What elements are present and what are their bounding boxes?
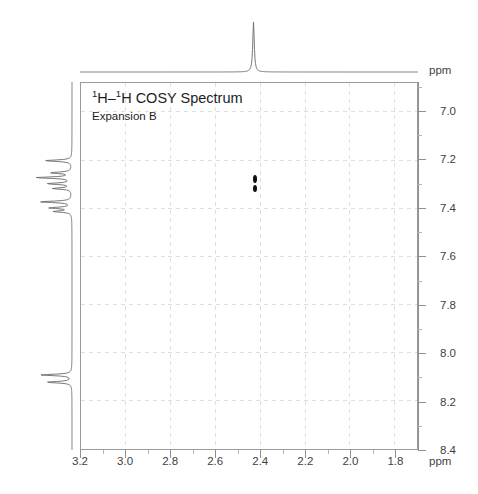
y-axis-tick — [418, 450, 426, 451]
y-axis-tick — [418, 159, 426, 160]
y-axis-minor-tick — [418, 426, 422, 427]
title-block: 1H–1H COSY Spectrum Expansion B — [92, 90, 243, 122]
x-axis-minor-tick — [328, 450, 329, 454]
y-axis-tick-label: 7.0 — [440, 105, 456, 117]
y-axis-tick — [418, 111, 426, 112]
y-axis-minor-tick — [418, 232, 422, 233]
x-axis-minor-tick — [283, 450, 284, 454]
y-axis-minor-tick — [418, 377, 422, 378]
x-axis-tick-label: 2.8 — [162, 455, 178, 467]
projection-top-trace — [80, 22, 418, 72]
y-axis-tick-label: 7.2 — [440, 153, 456, 165]
cross-peak — [253, 175, 257, 183]
x-axis-tick-label: 3.0 — [117, 455, 133, 467]
x-axis-minor-tick — [148, 450, 149, 454]
cross-peak-layer — [81, 83, 417, 449]
y-axis-minor-tick — [418, 329, 422, 330]
y-axis-unit-label: ppm — [429, 64, 451, 76]
y-axis-tick — [418, 256, 426, 257]
y-axis-minor-tick — [418, 87, 422, 88]
y-axis-minor-tick — [418, 135, 422, 136]
y-axis-tick — [418, 208, 426, 209]
y-axis-tick-label: 7.6 — [440, 250, 456, 262]
x-axis-unit-label: ppm — [429, 455, 451, 467]
y-axis-tick — [418, 353, 426, 354]
spectrum-plot-area — [80, 82, 418, 450]
subtitle: Expansion B — [92, 110, 243, 122]
x-axis-tick-label: 2.2 — [297, 455, 313, 467]
x-axis-minor-tick — [373, 450, 374, 454]
page-title: 1H–1H COSY Spectrum — [92, 90, 243, 107]
x-axis-minor-tick — [193, 450, 194, 454]
y-axis-tick-label: 7.4 — [440, 202, 456, 214]
y-axis-minor-tick — [418, 281, 422, 282]
cross-peak — [253, 185, 257, 192]
y-axis-spine — [418, 82, 419, 450]
x-axis-minor-tick — [103, 450, 104, 454]
projection-top-f2 — [80, 14, 418, 78]
x-axis-minor-tick — [238, 450, 239, 454]
projection-left-f1 — [14, 82, 78, 450]
y-axis-tick — [418, 402, 426, 403]
y-axis-minor-tick — [418, 184, 422, 185]
title-part-1: H– — [97, 90, 116, 106]
y-axis-tick-label: 7.8 — [440, 299, 456, 311]
y-axis-tick-label: 8.2 — [440, 396, 456, 408]
projection-left-trace — [36, 82, 72, 450]
y-axis-tick-label: 8.0 — [440, 347, 456, 359]
x-axis-tick-label: 2.6 — [207, 455, 223, 467]
y-axis-tick — [418, 305, 426, 306]
x-axis-tick-label: 2.0 — [342, 455, 358, 467]
nmr-figure: 7.07.27.47.67.88.08.28.43.23.02.82.62.42… — [0, 0, 478, 494]
x-axis-tick-label: 3.2 — [72, 455, 88, 467]
x-axis-tick-label: 1.8 — [387, 455, 403, 467]
title-part-2: H COSY Spectrum — [121, 90, 242, 106]
x-axis-tick-label: 2.4 — [252, 455, 268, 467]
